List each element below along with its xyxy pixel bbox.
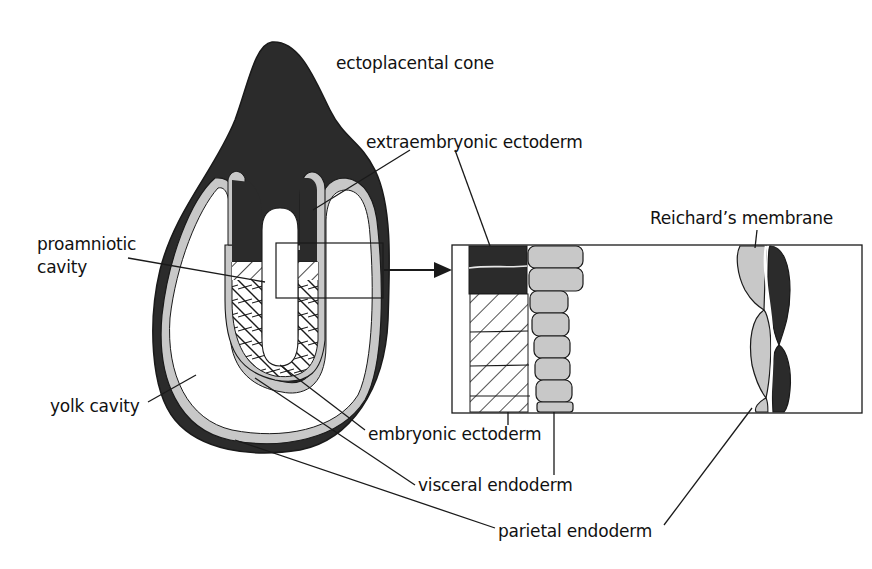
- egg-cylinder: [153, 42, 389, 453]
- inset-magnified-view: [452, 245, 862, 413]
- label-yolk-cavity: yolk cavity: [50, 395, 140, 417]
- proamniotic-cavity-region: [262, 208, 298, 366]
- label-proamniotic-cavity-line1: proamniotic: [37, 233, 136, 255]
- label-visceral-endoderm: visceral endoderm: [418, 474, 573, 496]
- label-proamniotic-cavity-line2: cavity: [37, 256, 87, 278]
- label-embryonic-ectoderm: embryonic ectoderm: [368, 423, 541, 445]
- label-extraembryonic-ectoderm: extraembryonic ectoderm: [366, 131, 583, 153]
- label-parietal-endoderm: parietal endoderm: [498, 520, 652, 542]
- magnify-arrow: [384, 262, 452, 278]
- label-ectoplacental-cone: ectoplacental cone: [336, 52, 494, 74]
- label-reichards-membrane: Reichard’s membrane: [650, 207, 833, 229]
